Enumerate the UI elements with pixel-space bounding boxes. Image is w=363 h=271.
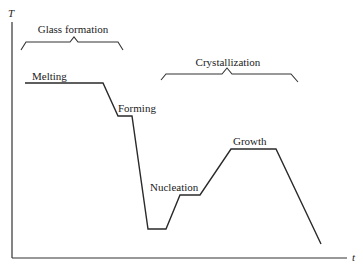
temperature-profile-line <box>25 83 321 244</box>
glass-ceramic-heat-treatment-diagram: T t Glass formation Crystallization Melt… <box>0 0 363 271</box>
glass-formation-label: Glass formation <box>38 23 109 35</box>
growth-label: Growth <box>233 135 267 147</box>
nucleation-label: Nucleation <box>150 181 199 193</box>
melting-label: Melting <box>32 70 67 82</box>
x-axis-label: t <box>352 251 356 263</box>
y-axis-label: T <box>8 7 15 19</box>
crystallization-label: Crystallization <box>196 56 261 68</box>
crystallization-bracket <box>161 68 298 82</box>
forming-label: Forming <box>118 102 156 114</box>
glass-formation-bracket <box>21 37 123 50</box>
